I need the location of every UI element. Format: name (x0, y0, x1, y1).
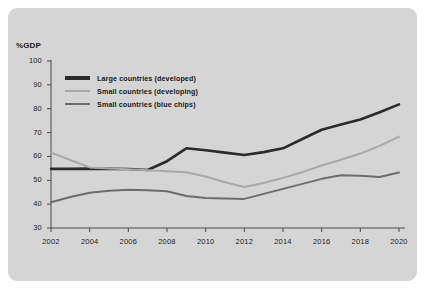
x-axis-tick-label: 2010 (189, 237, 223, 246)
legend-item-1: Large countries (developed) (65, 72, 196, 84)
series-line-1 (51, 104, 399, 170)
x-axis-tick-label: 2020 (382, 237, 416, 246)
y-axis-tick-label: 100 (20, 56, 42, 65)
y-axis-tick-label: 30 (20, 223, 42, 232)
y-axis-tick-label: 90 (20, 80, 42, 89)
x-axis-tick-label: 2018 (343, 237, 377, 246)
x-axis-tick-label: 2012 (227, 237, 261, 246)
legend-swatch-icon (65, 76, 90, 79)
x-axis-tick-label: 2006 (111, 237, 145, 246)
x-axis-tick-label: 2014 (266, 237, 300, 246)
legend-swatch-icon (65, 103, 90, 105)
y-axis-tick-label: 60 (20, 151, 42, 160)
y-axis-tick-label: 70 (20, 128, 42, 137)
legend-item-3: Small countries (blue chips) (65, 98, 196, 110)
chart-panel: %GDP 10090807060504030200220042006200820… (8, 8, 417, 281)
legend-swatch-icon (65, 90, 90, 92)
legend-item-2: Small countries (developing) (65, 85, 198, 97)
legend-label: Large countries (developed) (97, 74, 196, 83)
y-axis-tick-label: 50 (20, 175, 42, 184)
y-axis-tick-label: 80 (20, 104, 42, 113)
series-line-2 (51, 137, 399, 187)
series-line-3 (51, 172, 399, 202)
legend-label: Small countries (blue chips) (97, 100, 196, 109)
legend-label: Small countries (developing) (97, 87, 198, 96)
x-axis-tick-label: 2008 (150, 237, 184, 246)
x-axis-tick-label: 2016 (305, 237, 339, 246)
x-axis-tick-label: 2002 (34, 237, 68, 246)
x-axis-tick-label: 2004 (73, 237, 107, 246)
y-axis-tick-label: 40 (20, 199, 42, 208)
